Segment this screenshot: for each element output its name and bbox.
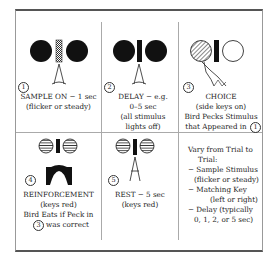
panel-3-line-2: Bird Pecks Stimulus: [179, 112, 263, 122]
notes-item-1: − Sample Stimulus: [188, 165, 258, 175]
panel-3-title: CHOICE: [179, 92, 263, 102]
notes-item-2: − Matching Key: [188, 185, 247, 195]
delay-keys-icon: [113, 40, 173, 90]
choice-keys-icon: [190, 40, 250, 90]
notes-heading-1: Vary from Trial to: [188, 145, 253, 155]
notes-item-3: − Delay (typically: [188, 205, 253, 215]
panel-4-last-line: was correct: [46, 220, 90, 230]
panel-3-line-1: (side keys on): [179, 102, 263, 112]
notes-item-3-detail: 0, 1, 2, or 5 sec): [194, 215, 253, 225]
notes-item-2-detail: (left or right): [210, 195, 258, 205]
panel-1-line-1: (flicker or steady): [16, 102, 101, 112]
step-number-4: 4: [25, 175, 36, 186]
divider-horizontal: [16, 132, 262, 133]
notes-heading-2: Trial:: [198, 155, 218, 165]
panel-2-line-3: lights off): [104, 122, 182, 132]
panel-3-line-3: that Appeared in: [179, 122, 253, 132]
panel-2-line-1: 0–5 sec: [104, 102, 182, 112]
food-hopper-icon: [46, 165, 72, 185]
panel-4-title: REINFORCEMENT: [16, 190, 101, 200]
rest-keys-icon: [115, 139, 175, 189]
step-ref-3: 3: [33, 220, 44, 231]
sample-keys-icon: [30, 40, 90, 90]
panel-4-line-1: (keys red): [16, 200, 101, 210]
panel-5-title: REST − 5 sec: [102, 190, 178, 200]
step-ref-1: 1: [250, 122, 261, 133]
panel-2-title: DELAY − e.g.: [104, 92, 182, 102]
panel-4-line-2: Bird Eats if Peck in: [16, 210, 101, 220]
panel-1-title: SAMPLE ON − 1 sec: [16, 92, 101, 102]
panel-5-line-1: (keys red): [102, 200, 178, 210]
notes-item-1-detail: (flicker or steady): [194, 175, 259, 185]
panel-2-line-2: (all stimulus: [104, 112, 182, 122]
step-number-5: 5: [108, 175, 119, 186]
